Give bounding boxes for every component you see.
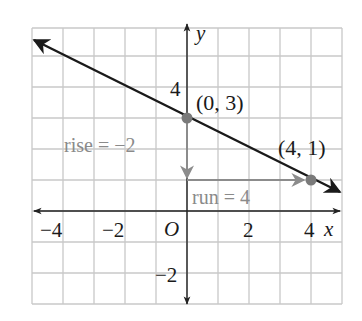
y-tick-label-neg2: −2 bbox=[155, 263, 177, 287]
x-axis-label: x bbox=[323, 217, 334, 241]
point-4-1 bbox=[306, 175, 317, 186]
x-tick-label-neg2: −2 bbox=[102, 218, 124, 242]
point-label-0-3: (0, 3) bbox=[196, 90, 244, 115]
point-label-4-1: (4, 1) bbox=[278, 135, 326, 160]
origin-label: O bbox=[164, 217, 179, 241]
rise-label: rise = −2 bbox=[64, 134, 135, 156]
x-tick-label-neg4: −4 bbox=[40, 218, 63, 242]
y-tick-label-4: 4 bbox=[170, 77, 181, 101]
x-tick-label-4: 4 bbox=[304, 218, 315, 242]
x-tick-label-2: 2 bbox=[243, 218, 254, 242]
coordinate-plane-figure: (0, 3) (4, 1) rise = −2 run = 4 x y O −4… bbox=[0, 0, 362, 321]
y-axis-label: y bbox=[194, 21, 206, 45]
run-label: run = 4 bbox=[192, 186, 250, 208]
point-0-3 bbox=[182, 113, 193, 124]
